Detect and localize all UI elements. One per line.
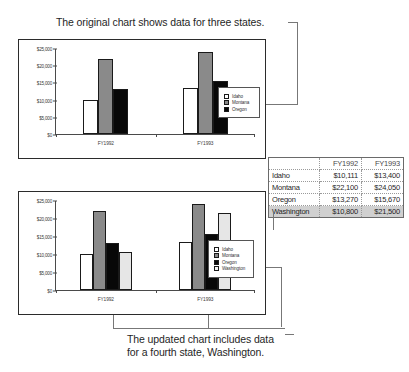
table-row[interactable]: Oregon $13,270 $15,670 bbox=[269, 194, 404, 206]
leader-line-top-horizontal bbox=[262, 104, 298, 105]
y-tick-label: $0 bbox=[47, 133, 52, 138]
legend-label-montana: Montana bbox=[232, 100, 249, 105]
table-row[interactable]: Idaho $10,111 $13,400 bbox=[269, 170, 404, 182]
table-header-row: FY1992 FY1993 bbox=[269, 158, 404, 170]
bar-group-fy1992: FY1992 bbox=[56, 201, 156, 290]
table-cell-fy1993: $15,670 bbox=[362, 194, 404, 206]
leader-line-top-vertical bbox=[297, 22, 298, 104]
legend-label-idaho: Idaho bbox=[232, 94, 243, 99]
y-tick-label: $20,000 bbox=[37, 64, 52, 69]
legend-item-idaho[interactable]: Idaho bbox=[214, 247, 248, 252]
leader-line-bottom-tick bbox=[285, 334, 294, 335]
y-tick-label: $5,000 bbox=[39, 271, 52, 276]
caption-updated-chart: The updated chart includes data for a fo… bbox=[127, 333, 274, 359]
bar-group-fy1992: FY1992 bbox=[56, 49, 156, 134]
x-tick-label-fy1992: FY1992 bbox=[56, 141, 156, 146]
legend-swatch-idaho-icon bbox=[224, 94, 229, 99]
bar-original-idaho-fy1992[interactable] bbox=[83, 100, 98, 134]
y-tick-label: $10,000 bbox=[37, 98, 52, 103]
table-header-blank bbox=[269, 158, 320, 170]
x-tick-label-fy1992: FY1992 bbox=[56, 297, 156, 302]
legend-swatch-idaho-icon bbox=[214, 247, 219, 252]
leader-line-legend-vertical bbox=[281, 267, 282, 327]
table-cell-fy1992: $22,100 bbox=[320, 182, 362, 194]
y-tick-label: $15,000 bbox=[37, 235, 52, 240]
table-row[interactable]: Montana $22,100 $24,050 bbox=[269, 182, 404, 194]
x-tick-label-fy1993: FY1993 bbox=[156, 141, 256, 146]
data-table[interactable]: FY1992 FY1993 Idaho $10,111 $13,400 Mont… bbox=[268, 157, 404, 218]
table-cell-fy1993: $21,500 bbox=[362, 206, 404, 218]
legend-item-montana[interactable]: Montana bbox=[214, 253, 248, 258]
table-cell-state: Idaho bbox=[269, 170, 320, 182]
table-cell-fy1992: $13,270 bbox=[320, 194, 362, 206]
legend-item-montana[interactable]: Montana bbox=[224, 100, 254, 105]
bar-updated-idaho-fy1992[interactable] bbox=[80, 254, 93, 290]
bar-updated-montana-fy1992[interactable] bbox=[93, 211, 106, 290]
bar-updated-idaho-fy1993[interactable] bbox=[179, 242, 192, 290]
table-cell-fy1993: $24,050 bbox=[362, 182, 404, 194]
table-cell-state: Washington bbox=[269, 206, 320, 218]
y-tick-label: $25,000 bbox=[37, 47, 52, 52]
y-tick-label: $0 bbox=[47, 289, 52, 294]
legend-swatch-montana-icon bbox=[214, 253, 219, 258]
table-cell-fy1992: $10,800 bbox=[320, 206, 362, 218]
y-tick-label: $25,000 bbox=[37, 199, 52, 204]
bar-original-montana-fy1993[interactable] bbox=[198, 52, 213, 134]
leader-line-top-tick bbox=[288, 22, 298, 23]
legend-swatch-washington-icon bbox=[214, 266, 219, 271]
legend-item-idaho[interactable]: Idaho bbox=[224, 94, 254, 99]
legend-updated[interactable]: Idaho Montana Oregon Washington bbox=[208, 240, 254, 278]
table-cell-fy1992: $10,111 bbox=[320, 170, 362, 182]
bar-original-montana-fy1992[interactable] bbox=[98, 59, 113, 134]
y-tick-label: $15,000 bbox=[37, 81, 52, 86]
table-header-fy1993: FY1993 bbox=[362, 158, 404, 170]
legend-label-idaho: Idaho bbox=[222, 247, 233, 252]
table-cell-fy1993: $13,400 bbox=[362, 170, 404, 182]
legend-swatch-montana-icon bbox=[224, 100, 229, 105]
legend-label-oregon: Oregon bbox=[232, 107, 247, 112]
bar-updated-oregon-fy1992[interactable] bbox=[106, 243, 119, 290]
bracket-line-horizontal bbox=[113, 328, 285, 329]
legend-swatch-oregon-icon bbox=[214, 260, 219, 265]
legend-original[interactable]: Idaho Montana Oregon bbox=[218, 87, 260, 118]
legend-item-oregon[interactable]: Oregon bbox=[224, 107, 254, 112]
y-tick-label: $10,000 bbox=[37, 253, 52, 258]
legend-label-oregon: Oregon bbox=[222, 260, 237, 265]
caption-original-chart: The original chart shows data for three … bbox=[56, 16, 264, 29]
bar-updated-montana-fy1993[interactable] bbox=[192, 204, 205, 290]
y-tick-label: $5,000 bbox=[39, 115, 52, 120]
legend-item-oregon[interactable]: Oregon bbox=[214, 260, 248, 265]
y-tick-label: $20,000 bbox=[37, 217, 52, 222]
table-cell-state: Montana bbox=[269, 182, 320, 194]
legend-label-montana: Montana bbox=[222, 253, 239, 258]
legend-swatch-oregon-icon bbox=[224, 107, 229, 112]
table-cell-state: Oregon bbox=[269, 194, 320, 206]
table-row-selected[interactable]: Washington $10,800 $21,500 bbox=[269, 206, 404, 218]
x-tick-label-fy1993: FY1993 bbox=[156, 297, 256, 302]
bar-original-oregon-fy1992[interactable] bbox=[113, 89, 128, 134]
leader-line-table-vertical bbox=[273, 212, 274, 230]
legend-item-washington[interactable]: Washington bbox=[214, 266, 248, 271]
table-header-fy1992: FY1992 bbox=[320, 158, 362, 170]
bar-updated-washington-fy1992[interactable] bbox=[119, 252, 132, 290]
legend-label-washington: Washington bbox=[222, 266, 245, 271]
bar-original-idaho-fy1993[interactable] bbox=[183, 88, 198, 134]
